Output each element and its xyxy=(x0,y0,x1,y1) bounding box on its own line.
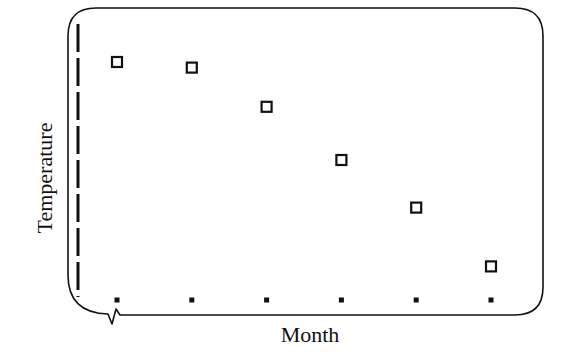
x-tick-mark xyxy=(489,298,494,303)
data-point-square-marker xyxy=(262,102,272,112)
data-points xyxy=(112,57,496,271)
x-tick-mark xyxy=(414,298,419,303)
y-axis-label: Temperature xyxy=(32,123,58,234)
y-axis-label-container: Temperature xyxy=(33,0,57,355)
x-axis-label: Month xyxy=(0,322,573,348)
chart-frame xyxy=(68,8,543,324)
data-point-square-marker xyxy=(411,203,421,213)
data-point-square-marker xyxy=(112,57,122,67)
x-tick-mark xyxy=(115,298,120,303)
x-axis-ticks xyxy=(115,298,494,303)
x-tick-mark xyxy=(189,298,194,303)
data-point-square-marker xyxy=(187,63,197,73)
chart-canvas xyxy=(0,0,573,355)
x-tick-mark xyxy=(339,298,344,303)
x-tick-mark xyxy=(264,298,269,303)
data-point-square-marker xyxy=(336,155,346,165)
data-point-square-marker xyxy=(486,261,496,271)
